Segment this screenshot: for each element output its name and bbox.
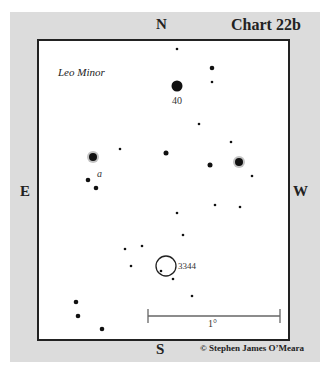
star-dot <box>198 123 201 126</box>
star-dot <box>89 153 97 161</box>
star-40-label: 40 <box>172 95 182 106</box>
star-dot <box>251 175 254 178</box>
star-dot <box>214 204 217 207</box>
star-dot <box>94 186 99 191</box>
star-dot <box>176 48 179 51</box>
scale-bar-label: 1° <box>208 318 217 329</box>
star-dot <box>86 178 91 183</box>
star-dot <box>100 327 105 332</box>
star-a-label: a <box>97 168 102 179</box>
star-dot <box>172 81 183 92</box>
star-dot <box>235 158 243 166</box>
scale-bar: 1° <box>148 309 280 329</box>
star-dot <box>239 206 242 209</box>
star-dot <box>182 234 185 237</box>
star-dot <box>141 245 144 248</box>
star-dot <box>124 248 127 251</box>
star-dot <box>208 163 213 168</box>
star-dot <box>191 295 194 298</box>
star-dot <box>230 141 233 144</box>
star-field: 3344 40 a 1° <box>0 0 326 372</box>
star-dot <box>119 148 122 151</box>
star-dot <box>130 265 133 268</box>
star-dot <box>176 212 179 215</box>
star-dot <box>160 270 163 273</box>
star-dot <box>210 66 215 71</box>
star-dot <box>76 314 81 319</box>
star-dot <box>164 151 169 156</box>
star-dot <box>211 81 214 84</box>
stars-group <box>74 48 254 332</box>
star-dot <box>74 300 79 305</box>
galaxy-ngc3344-label: 3344 <box>178 261 197 271</box>
galaxy-ngc3344-marker <box>156 256 176 276</box>
star-dot <box>172 278 175 281</box>
